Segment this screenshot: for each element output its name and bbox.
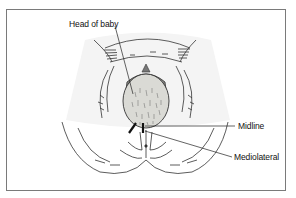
label-midline: Midline	[238, 121, 264, 131]
buttocks-outline	[62, 122, 228, 174]
perineum-illustration	[0, 0, 296, 198]
label-head-of-baby: Head of baby	[69, 19, 118, 29]
label-mediolateral: Mediolateral	[234, 152, 279, 162]
mediolateral-leader	[145, 131, 232, 157]
